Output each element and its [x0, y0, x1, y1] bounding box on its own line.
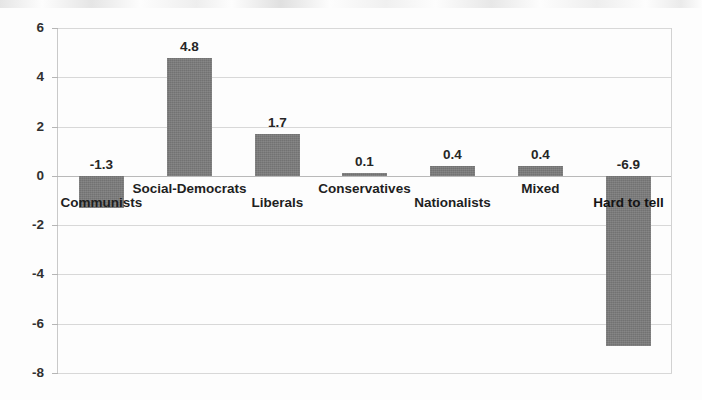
bar-value-label: 4.8 — [142, 39, 237, 54]
category-label: Liberals — [210, 195, 345, 210]
category-label: Nationalists — [385, 195, 520, 210]
chart-page: 6420-2-4-6-8 -1.3Communists4.8Social-Dem… — [0, 0, 702, 400]
bar-value-label: -1.3 — [54, 157, 149, 172]
category-label: Conservatives — [297, 181, 432, 196]
category-label: Mixed — [473, 181, 608, 196]
labels-layer: -1.3Communists4.8Social-Democrats1.7Libe… — [0, 0, 702, 400]
bar-value-label: 1.7 — [230, 115, 325, 130]
bar-value-label: -6.9 — [581, 157, 676, 172]
bar-value-label: 0.4 — [493, 147, 588, 162]
bar-value-label: 0.1 — [317, 154, 412, 169]
category-label: Communists — [34, 195, 169, 210]
category-label: Hard to tell — [561, 195, 696, 210]
category-label: Social-Democrats — [122, 181, 257, 196]
bar-value-label: 0.4 — [405, 147, 500, 162]
